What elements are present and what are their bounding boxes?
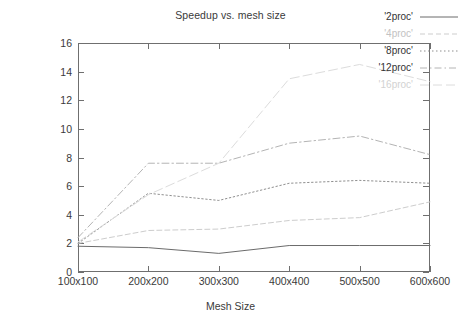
legend-swatch [419, 46, 459, 56]
x-tick-label: 300x300 [199, 275, 239, 287]
x-tick-label: 200x200 [128, 275, 168, 287]
x-tick [148, 266, 149, 272]
y-tick [78, 129, 84, 130]
y-tick-label: 6 [66, 180, 72, 192]
legend-item: '2proc' [331, 8, 459, 25]
chart-screenshot: Speedup vs. mesh size Speedup 0246810121… [0, 0, 461, 325]
x-tick-top [148, 43, 149, 49]
legend-item: '4proc' [331, 25, 459, 42]
x-tick [430, 266, 431, 272]
y-tick [78, 100, 84, 101]
x-tick-top [219, 43, 220, 49]
legend-label: '2proc' [384, 11, 413, 22]
series-line [78, 180, 430, 243]
x-tick-label: 600x600 [410, 275, 450, 287]
y-tick [78, 72, 84, 73]
x-tick-top [289, 43, 290, 49]
x-tick [360, 266, 361, 272]
series-line [78, 202, 430, 244]
legend-label: '16proc' [379, 79, 413, 90]
series-line [78, 246, 430, 254]
y-tick-right [423, 158, 429, 159]
legend-item: '8proc' [331, 42, 459, 59]
legend-swatch [419, 29, 459, 39]
y-tick-right [423, 100, 429, 101]
y-tick-right [423, 129, 429, 130]
legend-swatch [419, 12, 459, 22]
y-tick [78, 243, 84, 244]
y-tick [78, 215, 84, 216]
legend-swatch [419, 80, 459, 90]
y-tick-label: 14 [60, 66, 72, 78]
y-tick-right [423, 215, 429, 216]
legend: '2proc''4proc''8proc''12proc''16proc' [331, 8, 459, 93]
legend-item: '12proc' [331, 59, 459, 76]
x-axis-title: Mesh Size [0, 300, 461, 312]
y-tick-right [423, 243, 429, 244]
legend-label: '4proc' [384, 28, 413, 39]
y-tick-label: 2 [66, 237, 72, 249]
x-tick-label: 100x100 [58, 275, 98, 287]
y-tick-label: 4 [66, 209, 72, 221]
y-tick [78, 186, 84, 187]
y-tick-right [423, 272, 429, 273]
legend-label: '8proc' [384, 45, 413, 56]
x-axis-line [78, 271, 430, 272]
y-tick-label: 8 [66, 152, 72, 164]
x-tick-label: 400x400 [269, 275, 309, 287]
x-tick [219, 266, 220, 272]
legend-swatch [419, 63, 459, 73]
y-tick [78, 158, 84, 159]
y-tick-right [423, 186, 429, 187]
y-tick-label: 10 [60, 123, 72, 135]
x-tick [78, 266, 79, 272]
x-tick [289, 266, 290, 272]
y-tick-label: 12 [60, 94, 72, 106]
series-line [78, 136, 430, 238]
y-tick-label: 16 [60, 37, 72, 49]
legend-item: '16proc' [331, 76, 459, 93]
x-tick-top [78, 43, 79, 49]
legend-label: '12proc' [379, 62, 413, 73]
x-tick-label: 500x500 [339, 275, 379, 287]
y-tick [78, 272, 84, 273]
